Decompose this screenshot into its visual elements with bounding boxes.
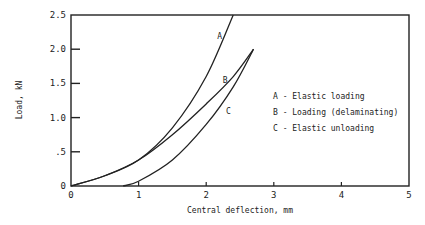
curve-c [123, 49, 253, 186]
svg-text:1.5: 1.5 [50, 78, 66, 88]
svg-text:0: 0 [61, 181, 66, 191]
legend: A - Elastic loading B - Loading (delamin… [273, 92, 398, 133]
svg-text:4: 4 [339, 190, 344, 200]
x-axis-label: Central deflection, mm [187, 206, 293, 215]
svg-text:2: 2 [203, 190, 208, 200]
curve-label-a: A [217, 32, 222, 41]
svg-text:1: 1 [136, 190, 141, 200]
svg-text:1.0: 1.0 [50, 113, 66, 123]
axis-ticks: 0123450.51.01.52.02.5 [50, 10, 412, 200]
curve-labels: ABC [217, 32, 231, 116]
svg-text:3: 3 [271, 190, 276, 200]
curve-label-c: C [226, 107, 231, 116]
svg-text:.5: .5 [55, 147, 66, 157]
svg-text:0: 0 [68, 190, 73, 200]
svg-text:2.5: 2.5 [50, 10, 66, 20]
legend-item-c: C - Elastic unloading [273, 124, 374, 133]
legend-item-b: B - Loading (delaminating) [273, 108, 398, 117]
y-axis-label: Load, kN [15, 81, 24, 120]
svg-text:2.0: 2.0 [50, 44, 66, 54]
svg-text:5: 5 [406, 190, 411, 200]
curve-b [71, 49, 254, 186]
legend-item-a: A - Elastic loading [273, 92, 365, 101]
chart-canvas: 0123450.51.01.52.02.5 ABC Central deflec… [0, 0, 425, 225]
curve-label-b: B [223, 76, 228, 85]
data-curves [71, 15, 254, 186]
